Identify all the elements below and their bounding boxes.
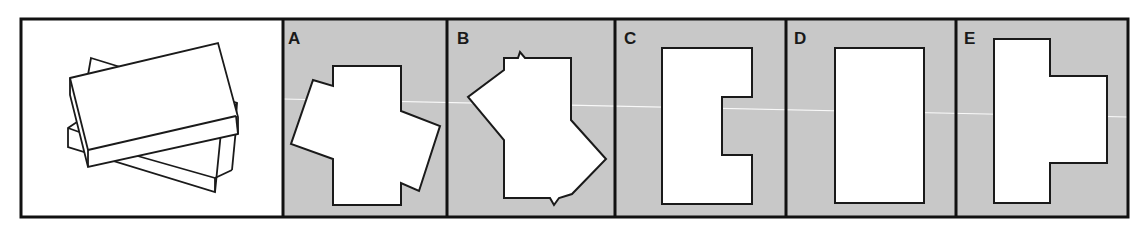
option-d-shape xyxy=(835,48,924,203)
option-b-label: B xyxy=(457,29,469,48)
option-a-label: A xyxy=(288,29,300,48)
option-d-label: D xyxy=(794,29,806,48)
puzzle-figure: A B C D E xyxy=(0,0,1144,230)
option-e-label: E xyxy=(964,29,975,48)
option-c-label: C xyxy=(624,29,636,48)
